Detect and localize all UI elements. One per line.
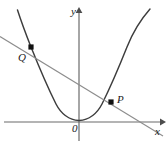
coordinate-plane-figure: y x Q P 0	[0, 0, 168, 143]
point-marker-P	[108, 99, 113, 104]
origin-label: 0	[72, 123, 78, 134]
point-label-q: Q	[18, 52, 26, 63]
figure-canvas	[0, 0, 168, 143]
x-axis-label: x	[155, 126, 160, 137]
point-marker-Q	[28, 44, 33, 49]
point-label-p: P	[117, 94, 124, 105]
parabola-curve	[18, 9, 151, 121]
x-axis-arrow-icon	[160, 119, 166, 126]
y-axis-label: y	[71, 6, 76, 17]
y-axis-arrow-icon	[76, 7, 83, 13]
